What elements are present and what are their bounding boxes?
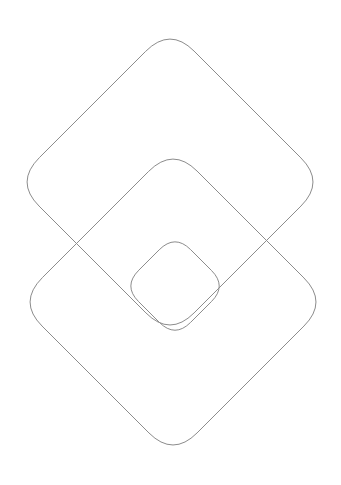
- shapes-group: [27, 39, 316, 445]
- diamond-small-outline: [131, 242, 219, 330]
- diamond-medium-outline: [30, 159, 316, 445]
- diagram-svg: [0, 0, 341, 485]
- diamond-large-outline: [27, 39, 313, 325]
- figure-canvas: [0, 0, 341, 485]
